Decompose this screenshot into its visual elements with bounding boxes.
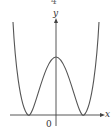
- function-graph: 4 y x 0: [0, 0, 112, 132]
- y-axis-label: y: [53, 9, 58, 18]
- header-fragment: 4: [51, 0, 57, 6]
- graph-canvas: [0, 0, 112, 132]
- y-axis-arrow-icon: [54, 18, 58, 23]
- origin-label: 0: [46, 120, 52, 129]
- x-axis-label: x: [105, 110, 110, 119]
